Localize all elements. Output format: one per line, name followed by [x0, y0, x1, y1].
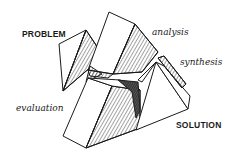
analysis-block	[88, 12, 158, 78]
label-synthesis: synthesis	[180, 58, 222, 67]
prism-drawing	[0, 0, 243, 161]
diagram: PROBLEM analysis synthesis evaluation SO…	[0, 0, 243, 161]
label-analysis: analysis	[152, 28, 189, 37]
label-problem: PROBLEM	[22, 30, 66, 39]
label-solution: SOLUTION	[176, 121, 222, 130]
label-evaluation: evaluation	[16, 104, 64, 113]
